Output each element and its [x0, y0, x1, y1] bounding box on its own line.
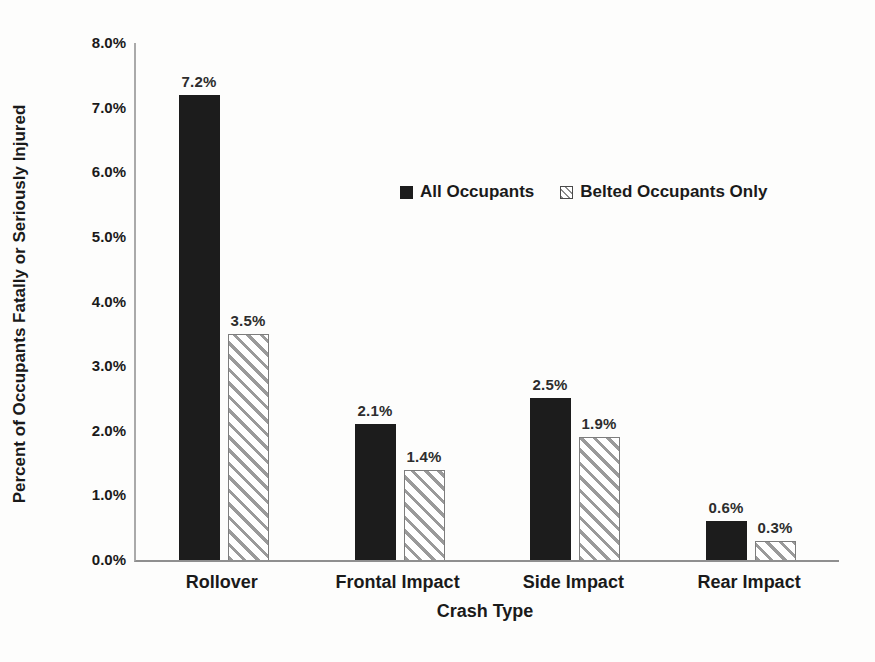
y-axis-title: Percent of Occupants Fatally or Seriousl…	[10, 69, 36, 539]
data-label-belted-occupants-only-side-impact: 1.9%	[554, 415, 644, 432]
x-category-label-side-impact: Side Impact	[483, 572, 663, 593]
bar-all-occupants-frontal-impact	[355, 424, 396, 560]
bar-belted-occupants-only-rollover	[228, 334, 269, 560]
x-category-label-frontal-impact: Frontal Impact	[308, 572, 488, 593]
legend-label-belted-occupants: Belted Occupants Only	[580, 182, 767, 202]
x-category-label-rear-impact: Rear Impact	[659, 572, 839, 593]
legend: All Occupants Belted Occupants Only	[400, 182, 767, 202]
y-tick-label-4.0: 4.0%	[54, 292, 126, 312]
y-tick-label-8.0: 8.0%	[54, 33, 126, 53]
data-label-belted-occupants-only-rear-impact: 0.3%	[730, 519, 820, 536]
x-axis-title: Crash Type	[395, 601, 575, 622]
y-tick-label-6.0: 6.0%	[54, 162, 126, 182]
legend-item-all-occupants: All Occupants	[400, 182, 534, 202]
bar-belted-occupants-only-frontal-impact	[404, 470, 445, 560]
legend-swatch-solid-icon	[400, 186, 413, 199]
bar-belted-occupants-only-side-impact	[579, 437, 620, 560]
y-tick-label-5.0: 5.0%	[54, 227, 126, 247]
y-tick-label-7.0: 7.0%	[54, 98, 126, 118]
data-label-all-occupants-side-impact: 2.5%	[505, 376, 595, 393]
plot-area: All Occupants Belted Occupants Only 7.2%…	[134, 43, 839, 562]
y-tick-label-2.0: 2.0%	[54, 421, 126, 441]
legend-swatch-hatched-icon	[560, 186, 573, 199]
legend-label-all-occupants: All Occupants	[420, 182, 534, 202]
data-label-belted-occupants-only-frontal-impact: 1.4%	[379, 448, 469, 465]
y-tick-label-1.0: 1.0%	[54, 485, 126, 505]
y-tick-label-0.0: 0.0%	[54, 550, 126, 570]
legend-item-belted-occupants: Belted Occupants Only	[560, 182, 767, 202]
chart-figure: Percent of Occupants Fatally or Seriousl…	[0, 0, 875, 662]
data-label-all-occupants-rear-impact: 0.6%	[681, 499, 771, 516]
y-tick-label-3.0: 3.0%	[54, 356, 126, 376]
data-label-all-occupants-frontal-impact: 2.1%	[330, 402, 420, 419]
data-label-all-occupants-rollover: 7.2%	[154, 73, 244, 90]
data-label-belted-occupants-only-rollover: 3.5%	[203, 312, 293, 329]
bar-belted-occupants-only-rear-impact	[755, 541, 796, 560]
x-category-label-rollover: Rollover	[132, 572, 312, 593]
